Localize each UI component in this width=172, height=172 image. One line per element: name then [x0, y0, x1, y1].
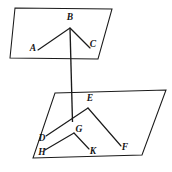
lower-plane	[33, 90, 166, 158]
planes-group	[10, 8, 166, 158]
vertex-label-G: G	[76, 125, 83, 135]
segment-E-F	[88, 108, 121, 146]
vertical-connector-group	[70, 28, 73, 122]
vertex-label-C: C	[90, 40, 96, 50]
vertex-label-F: F	[122, 143, 128, 153]
vertex-label-D: D	[39, 134, 46, 144]
segment-B-G-vertical	[70, 28, 73, 122]
geometry-figure: ABCDEFGHK	[0, 0, 172, 172]
vertex-label-B: B	[67, 13, 73, 23]
vertex-label-E: E	[87, 94, 93, 104]
segment-G-K	[74, 133, 89, 149]
vertex-label-A: A	[30, 44, 36, 54]
segment-A-B	[38, 28, 70, 50]
vertex-label-H: H	[38, 148, 45, 158]
vertex-label-K: K	[90, 147, 96, 157]
figure-canvas	[0, 0, 172, 172]
segment-B-C	[70, 28, 90, 48]
segment-H-G	[45, 133, 74, 150]
